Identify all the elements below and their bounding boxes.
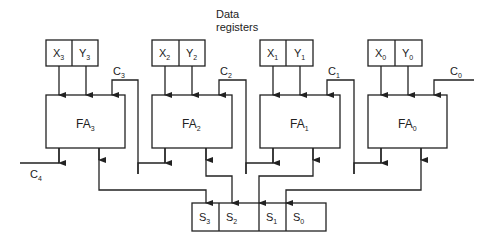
y0-label: Y0	[402, 47, 413, 61]
s0-label: S0	[293, 211, 304, 225]
y3-label: Y3	[79, 47, 90, 61]
s3-label: S3	[199, 211, 210, 225]
ripple-carry-adder-diagram: Data registers X3 Y3 C3 FA3 X2 Y2 C2 FA2…	[0, 0, 490, 243]
fa1-label: FA1	[290, 117, 309, 132]
s1-label: S1	[266, 211, 277, 225]
data-registers-label-line2: registers	[216, 21, 259, 33]
c4-label: C4	[30, 168, 42, 182]
x1-label: X1	[267, 47, 278, 61]
data-registers-label-line1: Data	[216, 8, 240, 20]
s2-label: S2	[226, 211, 237, 225]
x0-label: X0	[375, 47, 386, 61]
fa3-label: FA3	[76, 117, 95, 132]
c1-label: C1	[328, 65, 340, 79]
x3-label: X3	[53, 47, 64, 61]
fa0-label: FA0	[398, 117, 417, 132]
y1-label: Y1	[294, 47, 305, 61]
c0-label: C0	[450, 65, 462, 79]
c3-label: C3	[113, 65, 125, 79]
x2-label: X2	[159, 47, 170, 61]
y2-label: Y2	[186, 47, 197, 61]
fa2-label: FA2	[182, 117, 201, 132]
c2-label: C2	[220, 65, 232, 79]
